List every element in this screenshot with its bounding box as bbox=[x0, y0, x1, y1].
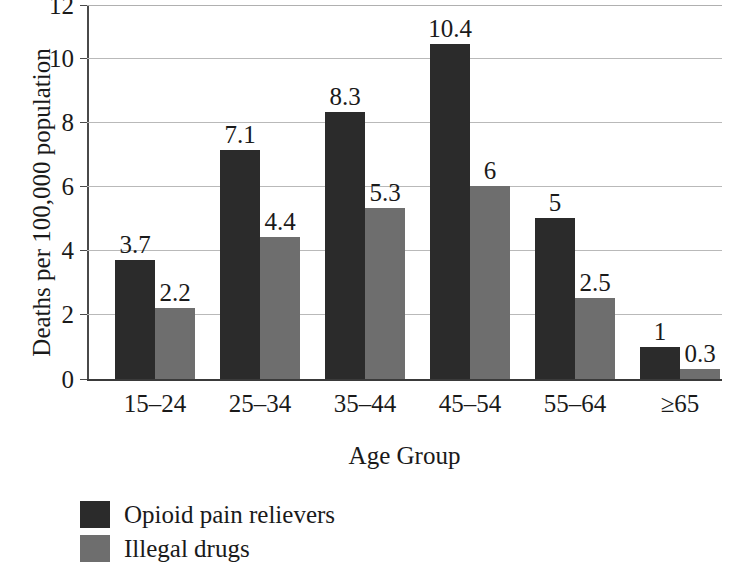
ytick-label-0: 0 bbox=[62, 367, 75, 392]
bar-value-opioid-65-plus: 1 bbox=[654, 319, 667, 344]
gridline-12: 12 bbox=[87, 5, 722, 6]
bar-value-opioid-15-24: 3.7 bbox=[119, 232, 150, 257]
bar-opioid-55-64[interactable]: 5 bbox=[535, 218, 575, 379]
bar-opioid-25-34[interactable]: 7.1 bbox=[220, 150, 260, 379]
x-axis-title: Age Group bbox=[87, 443, 722, 468]
xtick-label-15-24: 15–24 bbox=[124, 391, 187, 416]
ytick-mark-10 bbox=[80, 58, 87, 59]
ytick-label-12: 12 bbox=[49, 0, 74, 18]
legend-label-opioid: Opioid pain relievers bbox=[124, 502, 335, 527]
legend-item-opioid[interactable]: Opioid pain relievers bbox=[80, 497, 335, 531]
bar-value-opioid-35-44: 8.3 bbox=[329, 84, 360, 109]
gridline-10: 10 bbox=[87, 58, 722, 59]
bar-value-illegal-45-54: 6 bbox=[484, 158, 497, 183]
bar-value-opioid-55-64: 5 bbox=[549, 190, 562, 215]
ytick-mark-8 bbox=[80, 122, 87, 123]
bar-value-illegal-35-44: 5.3 bbox=[369, 180, 400, 205]
bar-illegal-55-64[interactable]: 2.5 bbox=[575, 298, 615, 379]
ytick-mark-2 bbox=[80, 314, 87, 315]
bar-illegal-35-44[interactable]: 5.3 bbox=[365, 208, 405, 379]
bar-illegal-15-24[interactable]: 2.2 bbox=[155, 308, 195, 379]
bar-illegal-45-54[interactable]: 6 bbox=[470, 186, 510, 379]
ytick-mark-12 bbox=[80, 5, 87, 6]
ytick-label-6: 6 bbox=[62, 174, 75, 199]
bar-value-opioid-25-34: 7.1 bbox=[224, 122, 255, 147]
bar-illegal-25-34[interactable]: 4.4 bbox=[260, 237, 300, 379]
y-axis-line bbox=[87, 5, 89, 380]
bar-chart-figure: Deaths per 100,000 population 12 10 8 6 … bbox=[0, 0, 743, 575]
bar-value-illegal-25-34: 4.4 bbox=[264, 209, 295, 234]
bar-value-illegal-55-64: 2.5 bbox=[579, 270, 610, 295]
bar-value-illegal-65-plus: 0.3 bbox=[684, 341, 715, 366]
bar-opioid-15-24[interactable]: 3.7 bbox=[115, 260, 155, 379]
xtick-label-25-34: 25–34 bbox=[229, 391, 292, 416]
bar-opioid-65-plus[interactable]: 1 bbox=[640, 347, 680, 379]
bar-value-illegal-15-24: 2.2 bbox=[159, 280, 190, 305]
legend-item-illegal[interactable]: Illegal drugs bbox=[80, 531, 335, 565]
xtick-label-35-44: 35–44 bbox=[334, 391, 397, 416]
bar-opioid-35-44[interactable]: 8.3 bbox=[325, 112, 365, 379]
xtick-label-65-plus: ≥65 bbox=[661, 391, 700, 416]
ytick-mark-0 bbox=[80, 379, 87, 380]
ytick-label-10: 10 bbox=[49, 46, 74, 71]
ytick-mark-6 bbox=[80, 186, 87, 187]
ytick-label-8: 8 bbox=[62, 110, 75, 135]
gridline-8: 8 bbox=[87, 122, 722, 123]
plot-area: 12 10 8 6 4 2 0 3.7 2.2 bbox=[87, 5, 722, 380]
y-axis-title: Deaths per 100,000 population bbox=[29, 23, 54, 383]
legend-swatch-illegal-icon bbox=[80, 535, 110, 562]
legend-swatch-opioid-icon bbox=[80, 501, 110, 528]
xtick-label-45-54: 45–54 bbox=[439, 391, 502, 416]
gridline-6: 6 bbox=[87, 186, 722, 187]
ytick-label-2: 2 bbox=[62, 302, 75, 327]
chart-legend: Opioid pain relievers Illegal drugs bbox=[80, 497, 335, 565]
bar-value-opioid-45-54: 10.4 bbox=[428, 16, 472, 41]
bar-illegal-65-plus[interactable]: 0.3 bbox=[680, 369, 720, 379]
bar-opioid-45-54[interactable]: 10.4 bbox=[430, 44, 470, 379]
gridline-0: 0 bbox=[87, 379, 722, 380]
xtick-label-55-64: 55–64 bbox=[544, 391, 607, 416]
ytick-mark-4 bbox=[80, 250, 87, 251]
ytick-label-4: 4 bbox=[62, 238, 75, 263]
legend-label-illegal: Illegal drugs bbox=[124, 536, 250, 561]
